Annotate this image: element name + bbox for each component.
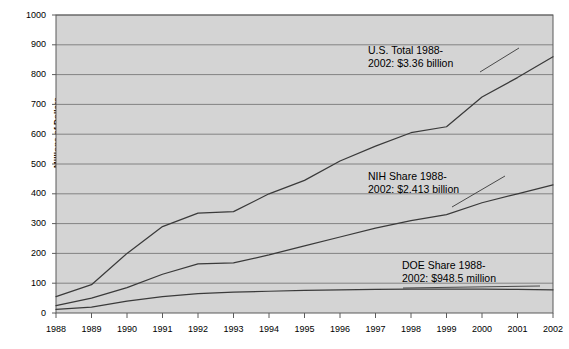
annotation-us-total-line2: 2002: $3.36 billion (368, 57, 453, 70)
x-axis-tick-label: 1994 (249, 325, 289, 334)
annotation-doe-share: DOE Share 1988- 2002: $948.5 million (402, 259, 496, 285)
annotation-doe-share-line1: DOE Share 1988- (402, 259, 496, 272)
chart-figure: Millions of Dollars 01002003004005006007… (0, 0, 569, 349)
y-axis-tick-label: 0 (12, 309, 46, 318)
x-axis-tick-label: 1993 (214, 325, 254, 334)
x-axis-tick-label: 1997 (356, 325, 396, 334)
x-axis-tick-label: 2002 (533, 325, 569, 334)
y-axis-tick-label: 1000 (12, 11, 46, 20)
y-axis-tick-label: 300 (12, 219, 46, 228)
annotation-doe-share-line2: 2002: $948.5 million (402, 272, 496, 285)
x-axis-tick-label: 1999 (427, 325, 467, 334)
x-axis-ticks (56, 313, 553, 318)
x-axis-tick-label: 1991 (143, 325, 183, 334)
annotation-nih-share-line2: 2002: $2.413 billion (368, 183, 459, 196)
x-axis-tick-label: 2001 (498, 325, 538, 334)
annotation-us-total: U.S. Total 1988- 2002: $3.36 billion (368, 44, 453, 70)
y-axis-tick-label: 200 (12, 249, 46, 258)
x-axis-tick-label: 2000 (462, 325, 502, 334)
y-axis-tick-label: 600 (12, 130, 46, 139)
annotation-nih-share: NIH Share 1988- 2002: $2.413 billion (368, 170, 459, 196)
x-axis-tick-label: 1996 (320, 325, 360, 334)
annotation-us-total-line1: U.S. Total 1988- (368, 44, 453, 57)
y-axis-tick-label: 500 (12, 160, 46, 169)
x-axis-tick-label: 1990 (107, 325, 147, 334)
y-axis-tick-label: 100 (12, 279, 46, 288)
y-axis-tick-label: 800 (12, 70, 46, 79)
x-axis-tick-label: 1988 (36, 325, 76, 334)
y-axis-tick-label: 400 (12, 189, 46, 198)
x-axis-tick-label: 1992 (178, 325, 218, 334)
y-axis-tick-label: 700 (12, 100, 46, 109)
x-axis-tick-label: 1998 (391, 325, 431, 334)
annotation-nih-share-line1: NIH Share 1988- (368, 170, 459, 183)
x-axis-tick-label: 1989 (72, 325, 112, 334)
y-axis-tick-label: 900 (12, 40, 46, 49)
plot-canvas (0, 0, 569, 349)
x-axis-tick-label: 1995 (285, 325, 325, 334)
